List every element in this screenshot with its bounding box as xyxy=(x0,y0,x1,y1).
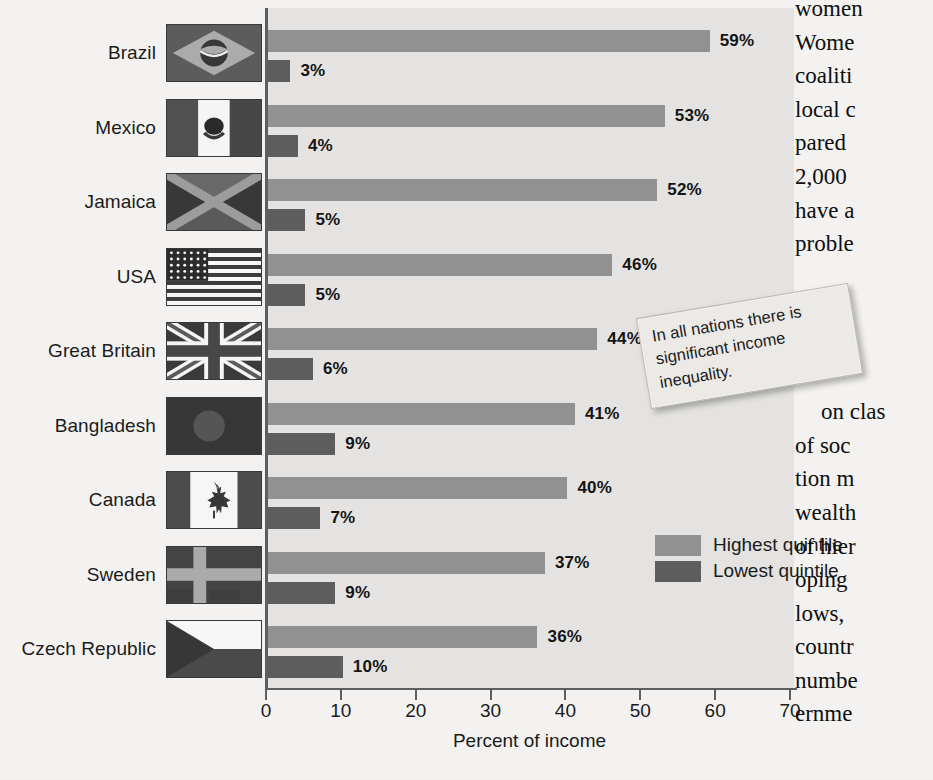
bar-highest-quintile xyxy=(268,477,567,499)
country-row: Bangladesh xyxy=(0,400,262,452)
country-label: Brazil xyxy=(108,42,156,64)
bar-value-label-lowest: 6% xyxy=(323,359,348,379)
body-text-line: coaliti xyxy=(795,59,933,93)
body-text-line: local c xyxy=(795,93,933,127)
bar-value-label-highest: 41% xyxy=(585,404,620,424)
body-text-line: lows, xyxy=(795,597,933,631)
bar-lowest-quintile xyxy=(268,507,320,529)
flag-great-britain-icon xyxy=(166,322,262,380)
bar-value-label-highest: 46% xyxy=(622,255,657,275)
country-label: Jamaica xyxy=(85,191,156,213)
body-text-line xyxy=(795,261,933,295)
chart-bar-group: 36%10% xyxy=(268,626,794,678)
chart-bar-group: 46%5% xyxy=(268,254,794,306)
flag-jamaica-icon xyxy=(166,173,262,231)
body-text-line: wealth xyxy=(795,496,933,530)
bar-lowest-quintile xyxy=(268,358,313,380)
x-axis-tick xyxy=(415,688,417,700)
bar-value-label-lowest: 9% xyxy=(345,583,370,603)
bar-value-label-highest: 37% xyxy=(555,553,590,573)
legend-swatch-highest-icon xyxy=(655,535,701,556)
country-row: Mexico xyxy=(0,102,262,154)
body-text-line: of soc xyxy=(795,429,933,463)
country-label: Czech Republic xyxy=(22,638,156,660)
flag-canada-icon xyxy=(166,471,262,529)
bar-highest-quintile xyxy=(268,626,537,648)
country-label: Great Britain xyxy=(48,340,156,362)
bar-highest-quintile xyxy=(268,328,597,350)
x-axis-title: Percent of income xyxy=(265,730,794,752)
flag-usa-icon xyxy=(166,248,262,306)
x-axis-tick xyxy=(490,688,492,700)
bar-value-label-highest: 40% xyxy=(577,478,612,498)
body-text-line: oping xyxy=(795,563,933,597)
body-text-column: womenWomecoalitilocal cpared2,000have ap… xyxy=(795,0,933,780)
body-text-line: of hier xyxy=(795,530,933,564)
country-label: USA xyxy=(117,266,156,288)
flag-mexico-icon xyxy=(166,99,262,157)
country-row: Canada xyxy=(0,474,262,526)
body-text-line: pared xyxy=(795,126,933,160)
bar-lowest-quintile xyxy=(268,284,305,306)
bar-lowest-quintile xyxy=(268,135,298,157)
country-label: Mexico xyxy=(95,117,156,139)
income-inequality-chart-figure: 59%3%53%4%52%5%46%5%44%6%41%9%40%7%37%9%… xyxy=(0,0,795,780)
bar-lowest-quintile xyxy=(268,433,335,455)
bar-value-label-lowest: 5% xyxy=(315,210,340,230)
body-text-line xyxy=(795,328,933,362)
flag-bangladesh-icon xyxy=(166,397,262,455)
bar-value-label-highest: 44% xyxy=(607,329,642,349)
body-text-line xyxy=(795,362,933,396)
bar-highest-quintile xyxy=(268,254,612,276)
country-label: Sweden xyxy=(87,564,156,586)
country-row: Sweden xyxy=(0,549,262,601)
body-text-line xyxy=(795,294,933,328)
bar-value-label-lowest: 5% xyxy=(315,285,340,305)
bar-value-label-lowest: 7% xyxy=(330,508,355,528)
bar-lowest-quintile xyxy=(268,582,335,604)
body-text-line: Wome xyxy=(795,26,933,60)
x-axis-tick-label: 60 xyxy=(705,700,726,722)
country-label: Canada xyxy=(89,489,156,511)
bar-value-label-lowest: 10% xyxy=(353,657,388,677)
bar-lowest-quintile xyxy=(268,209,305,231)
x-axis-tick xyxy=(714,688,716,700)
body-text-line: 2,000 xyxy=(795,160,933,194)
body-text-line: proble xyxy=(795,227,933,261)
body-text-line: countr xyxy=(795,630,933,664)
x-axis-tick-label: 0 xyxy=(261,700,272,722)
x-axis-tick-label: 30 xyxy=(480,700,501,722)
x-axis-line xyxy=(265,688,797,690)
flag-sweden-icon xyxy=(166,546,262,604)
x-axis-tick xyxy=(265,688,267,700)
body-text-line: have a xyxy=(795,194,933,228)
bar-highest-quintile xyxy=(268,179,657,201)
bar-value-label-lowest: 3% xyxy=(300,61,325,81)
x-axis-tick-label: 40 xyxy=(555,700,576,722)
body-text-line: women xyxy=(795,0,933,26)
x-axis-tick xyxy=(789,688,791,700)
chart-bar-group: 53%4% xyxy=(268,105,794,157)
bar-highest-quintile xyxy=(268,403,575,425)
bar-value-label-highest: 52% xyxy=(667,180,702,200)
flag-czech-republic-icon xyxy=(166,620,262,678)
chart-bar-group: 59%3% xyxy=(268,30,794,82)
bar-lowest-quintile xyxy=(268,60,290,82)
x-axis-tick-label: 20 xyxy=(405,700,426,722)
country-row: Czech Republic xyxy=(0,623,262,675)
body-text-line: ernme xyxy=(795,697,933,731)
legend-swatch-lowest-icon xyxy=(655,561,701,582)
bar-value-label-highest: 53% xyxy=(675,106,710,126)
bar-highest-quintile xyxy=(268,552,545,574)
x-axis-tick xyxy=(639,688,641,700)
x-axis-tick-label: 10 xyxy=(330,700,351,722)
chart-bar-group: 52%5% xyxy=(268,179,794,231)
chart-bar-group: 41%9% xyxy=(268,403,794,455)
body-text-line: tion m xyxy=(795,462,933,496)
bar-value-label-highest: 59% xyxy=(720,31,755,51)
bar-highest-quintile xyxy=(268,30,710,52)
x-axis-tick-label: 50 xyxy=(630,700,651,722)
bar-lowest-quintile xyxy=(268,656,343,678)
body-text-line: numbe xyxy=(795,664,933,698)
country-row: Jamaica xyxy=(0,176,262,228)
